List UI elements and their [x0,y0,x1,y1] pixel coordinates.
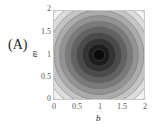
panel-label: (A) [8,37,27,53]
contour-level [93,49,104,60]
x-tick: 1.5 [114,102,130,111]
y-tick: 1 [37,50,51,59]
contour-plot-area [53,10,145,100]
y-tick: 1.5 [37,27,51,36]
contour-rings [54,11,144,99]
x-tick: 0.5 [69,102,85,111]
y-tick: 0.5 [37,72,51,81]
x-tick: 0 [46,102,62,111]
y-tick: 2 [37,4,51,13]
x-tick: 1 [92,102,108,111]
x-axis-label: b [96,113,101,123]
x-tick: 2 [137,102,153,111]
